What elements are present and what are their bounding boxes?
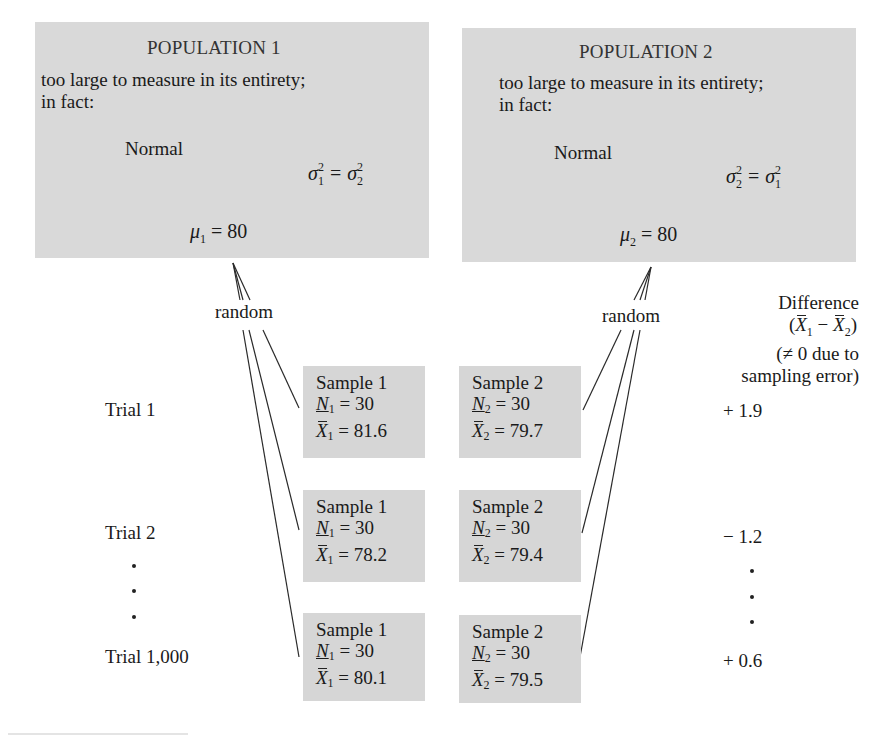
sample-mean: X2 = 79.5	[472, 669, 581, 696]
trial-1-sample-1: Sample 1 N1 = 30 X1 = 81.6	[303, 366, 425, 458]
n-symbol: N	[472, 517, 485, 538]
sigma-symbol: σ	[726, 165, 736, 187]
trial-1000-sample-1: Sample 1 N1 = 30 X1 = 80.1	[303, 613, 425, 701]
mu-symbol: μ	[620, 223, 630, 245]
mean-value: = 80.1	[338, 667, 387, 688]
population-1-title: POPULATION 1	[147, 37, 281, 59]
difference-title: Difference	[700, 292, 859, 314]
population-2-desc-line2: in fact:	[499, 94, 764, 116]
ellipsis-dot	[750, 620, 754, 624]
population-2-box: POPULATION 2 too large to measure in its…	[462, 28, 856, 262]
mu-sub: 2	[630, 235, 636, 249]
ellipsis-dot	[132, 589, 136, 593]
population-2-title: POPULATION 2	[579, 41, 713, 63]
sample-title: Sample 1	[316, 496, 425, 517]
sample-mean: X1 = 78.2	[316, 544, 425, 571]
sample-mean: X2 = 79.7	[472, 420, 581, 447]
sigma-sub: 1	[775, 177, 781, 191]
difference-note-line1: (≠ 0 due to	[700, 343, 859, 365]
population-1-desc-line2: in fact:	[41, 91, 306, 113]
difference-header: Difference (X1 − X2) (≠ 0 due to samplin…	[700, 292, 859, 387]
difference-formula: (X1 − X2)	[700, 314, 859, 343]
equals-sign: =	[324, 162, 347, 184]
n-sub: 2	[485, 651, 491, 665]
sample-size: N1 = 30	[316, 393, 425, 420]
n-value: = 30	[495, 642, 529, 663]
xbar-symbol: X	[472, 420, 484, 441]
squared-sup: 2	[357, 160, 363, 174]
trial-label-2: Trial 2	[105, 522, 156, 544]
population-2-distribution-label: Normal	[554, 142, 612, 164]
mean-value: = 80	[641, 223, 677, 245]
difference-trial-1: + 1.9	[723, 400, 762, 422]
n-value: = 30	[339, 640, 373, 661]
population-1-desc-line1: too large to measure in its entirety;	[41, 69, 306, 91]
population-1-description: too large to measure in its entirety; in…	[41, 69, 306, 113]
sigma-sub: 2	[736, 177, 742, 191]
population-2-description: too large to measure in its entirety; in…	[499, 72, 764, 116]
xbar-sub: 1	[328, 429, 334, 443]
trial-label-1000: Trial 1,000	[105, 646, 189, 668]
sigma-sub: 1	[318, 174, 324, 188]
mu-sub: 1	[200, 232, 206, 246]
n-symbol: N	[472, 393, 485, 414]
sample-title: Sample 1	[316, 619, 425, 640]
squared-sup: 2	[736, 163, 742, 177]
sample-title: Sample 1	[316, 372, 425, 393]
xbar-sub: 2	[484, 429, 490, 443]
xbar-symbol: X	[316, 544, 328, 565]
mean-value: = 79.5	[494, 669, 543, 690]
difference-note-line2: sampling error)	[700, 365, 859, 387]
ellipsis-dot	[750, 569, 754, 573]
n-value: = 30	[495, 517, 529, 538]
sample-title: Sample 2	[472, 496, 581, 517]
equals-sign: =	[742, 165, 765, 187]
sigma-symbol: σ	[765, 165, 775, 187]
squared-sup: 2	[775, 163, 781, 177]
n-value: = 30	[339, 393, 373, 414]
xbar-sub: 2	[484, 678, 490, 692]
population-2-variance-equation: σ22=σ21	[726, 165, 781, 188]
sample-title: Sample 2	[472, 372, 581, 393]
random-label-1: random	[215, 301, 273, 323]
xbar-symbol: X	[316, 667, 328, 688]
sample-size: N2 = 30	[472, 517, 581, 544]
n-value: = 30	[339, 517, 373, 538]
ellipsis-dot	[132, 564, 136, 568]
xbar-symbol: X	[472, 544, 484, 565]
xbar-sub: 1	[328, 553, 334, 567]
sigma-sub: 2	[357, 174, 363, 188]
n-symbol: N	[316, 393, 329, 414]
difference-trial-1000: + 0.6	[723, 650, 762, 672]
n-symbol: N	[316, 517, 329, 538]
sample-size: N2 = 30	[472, 642, 581, 669]
ellipsis-dot	[750, 595, 754, 599]
n-sub: 2	[485, 526, 491, 540]
trial-2-sample-1: Sample 1 N1 = 30 X1 = 78.2	[303, 490, 425, 582]
trial-2-sample-2: Sample 2 N2 = 30 X2 = 79.4	[459, 490, 581, 582]
n-sub: 1	[329, 649, 335, 663]
sample-size: N1 = 30	[316, 640, 425, 667]
mean-value: = 78.2	[338, 544, 387, 565]
n-symbol: N	[472, 642, 485, 663]
bottom-rule	[8, 733, 188, 735]
population-1-box: POPULATION 1 too large to measure in its…	[35, 22, 429, 258]
sample-size: N1 = 30	[316, 517, 425, 544]
trial-label-1: Trial 1	[105, 399, 156, 421]
squared-sup: 2	[318, 160, 324, 174]
population-1-variance-equation: σ21=σ22	[308, 162, 363, 185]
n-value: = 30	[495, 393, 529, 414]
mean-value: = 79.4	[494, 544, 543, 565]
n-sub: 1	[329, 402, 335, 416]
sample-size: N2 = 30	[472, 393, 581, 420]
population-1-distribution-label: Normal	[125, 138, 183, 160]
population-2-mean: μ2 = 80	[620, 223, 677, 250]
mean-value: = 79.7	[494, 420, 543, 441]
sample-title: Sample 2	[472, 621, 581, 642]
xbar-sub: 2	[484, 553, 490, 567]
mean-value: = 81.6	[338, 420, 387, 441]
n-symbol: N	[316, 640, 329, 661]
sigma-symbol: σ	[308, 162, 318, 184]
n-sub: 2	[485, 402, 491, 416]
n-sub: 1	[329, 526, 335, 540]
